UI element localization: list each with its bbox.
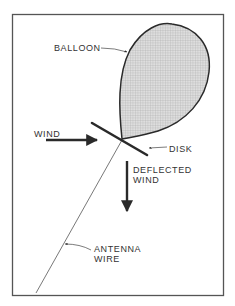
antenna-wire-label-line2: WIRE [94,254,120,264]
wind-label: WIND [34,129,60,139]
antenna-wire-label-line1: ANTENNA [94,244,141,254]
balloon-shape [120,24,210,139]
disk-leader [149,147,167,148]
balloon-disk-diagram: BALLOON WIND DISK DEFLECTED WIND ANTENNA… [0,0,235,306]
balloon-leader [101,48,127,52]
antenna-wire [36,140,122,293]
disk-label: DISK [169,144,192,154]
antenna-leader [65,244,91,250]
deflected-wind-label-line1: DEFLECTED [133,165,192,175]
balloon-label: BALLOON [54,43,101,53]
deflected-wind-label-line2: WIND [133,175,159,185]
